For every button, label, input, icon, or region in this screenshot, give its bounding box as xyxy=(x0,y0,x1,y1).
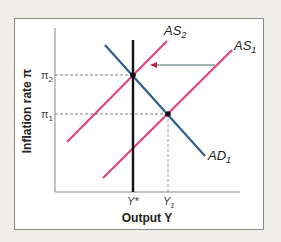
y1-tick-label: Y1 xyxy=(163,195,175,210)
pi2-tick-label: π2 xyxy=(41,69,54,84)
equilibrium-point-2 xyxy=(130,72,136,78)
as2-label: AS2 xyxy=(163,23,186,40)
as-ad-diagram: AS2 AS1 AD1 π2 π1 Y* Y1 Output Y Inflati… xyxy=(0,0,281,242)
pi1-tick-label: π1 xyxy=(41,108,54,123)
y-axis-title: Inflation rate π xyxy=(20,69,34,154)
ad1-curve xyxy=(105,45,205,156)
equilibrium-point-1 xyxy=(165,111,171,117)
as2-curve xyxy=(67,41,167,142)
shift-arrow-head xyxy=(150,62,157,68)
ystar-tick-label: Y* xyxy=(127,195,139,207)
as1-label: AS1 xyxy=(233,38,256,55)
x-axis-title: Output Y xyxy=(122,211,172,225)
ad1-label: AD1 xyxy=(207,148,231,165)
